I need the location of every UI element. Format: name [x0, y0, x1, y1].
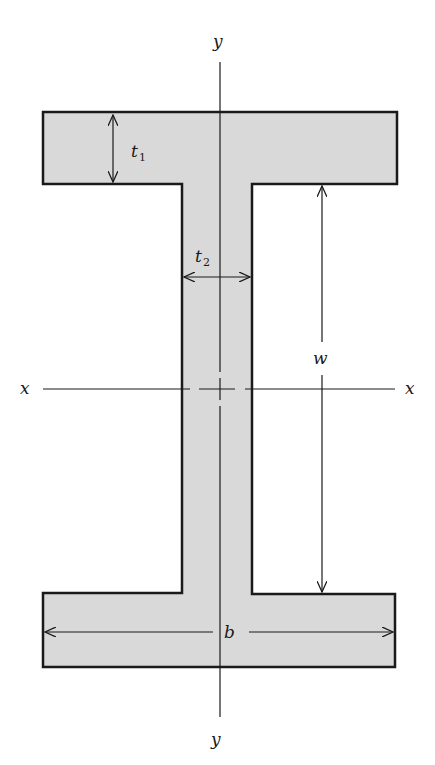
y-axis-label-bottom: y [210, 729, 221, 749]
t1-label: t [131, 141, 138, 161]
b-label: b [224, 622, 235, 642]
i-beam-diagram: y y x x t 1 t 2 w b [0, 0, 435, 765]
t2-label-subscript: 2 [203, 256, 210, 269]
t2-label: t [195, 246, 202, 266]
x-axis-label-right: x [405, 378, 415, 398]
x-axis-label-left: x [20, 378, 30, 398]
w-label: w [313, 348, 328, 368]
t1-label-subscript: 1 [139, 151, 146, 164]
y-axis-label-top: y [212, 31, 223, 51]
